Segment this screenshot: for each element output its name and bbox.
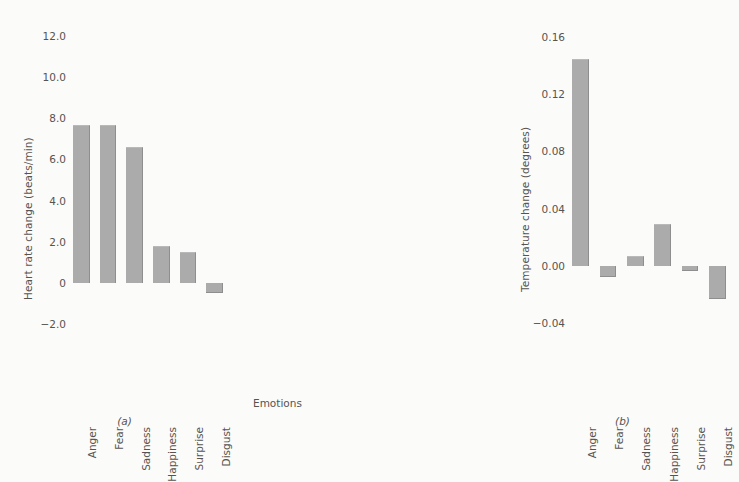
category-label-fear: Fear — [613, 427, 625, 450]
bar-surprise — [682, 266, 699, 272]
panel-b: Temperature change (degrees) 0.160.120.0… — [249, 0, 498, 431]
y-tick-label: 12.0 — [43, 30, 66, 42]
y-axis-ticks-panel-a: 12.010.08.06.04.02.00−2.0 — [24, 0, 66, 431]
y-tick-label: 2.0 — [49, 236, 66, 248]
y-axis-ticks-panel-b: 0.160.120.080.040.00−0.04 — [521, 0, 565, 431]
bar-anger — [572, 59, 589, 266]
category-label-anger: Anger — [86, 427, 98, 458]
bar-sadness — [126, 147, 143, 282]
category-label-sadness: Sadness — [140, 427, 152, 471]
category-label-sadness: Sadness — [640, 427, 652, 471]
bar-sadness — [627, 256, 644, 266]
category-label-surprise: Surprise — [695, 427, 707, 470]
category-label-happiness: Happiness — [668, 427, 680, 482]
category-label-fear: Fear — [113, 427, 125, 450]
panel-a: Heart rate change (beats/min) 12.010.08.… — [0, 0, 249, 431]
panel-caption-a: (a) — [0, 415, 249, 427]
category-label-anger: Anger — [586, 427, 598, 458]
bar-anger — [73, 125, 90, 283]
y-tick-label: 0.00 — [542, 260, 565, 272]
y-tick-label: 0.08 — [542, 145, 565, 157]
y-tick-label: 4.0 — [49, 195, 66, 207]
plot-area-panel-a — [68, 20, 228, 340]
plot-area-panel-b — [567, 20, 731, 340]
category-label-disgust: Disgust — [722, 427, 734, 466]
y-tick-label: 6.0 — [49, 153, 66, 165]
y-tick-label: 0 — [59, 277, 66, 289]
panel-caption-b: (b) — [498, 415, 739, 427]
x-axis-title: Emotions — [253, 397, 302, 409]
bar-surprise — [180, 252, 197, 283]
category-label-surprise: Surprise — [193, 427, 205, 470]
bar-happiness — [153, 246, 170, 283]
y-tick-label: −2.0 — [41, 318, 67, 330]
y-tick-label: −0.04 — [533, 317, 565, 329]
y-tick-label: 10.0 — [43, 71, 66, 83]
bar-disgust — [206, 283, 223, 293]
y-tick-label: 0.16 — [542, 31, 565, 43]
bar-fear — [100, 125, 117, 283]
bar-happiness — [654, 224, 671, 265]
y-tick-label: 8.0 — [49, 112, 66, 124]
category-label-disgust: Disgust — [220, 427, 232, 466]
bar-fear — [600, 266, 617, 277]
y-tick-label: 0.04 — [542, 203, 565, 215]
y-tick-label: 0.12 — [542, 88, 565, 100]
bar-disgust — [709, 266, 726, 299]
category-label-happiness: Happiness — [166, 427, 178, 482]
